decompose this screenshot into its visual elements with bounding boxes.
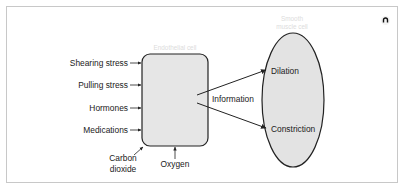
carbon-dioxide-label-line1: Carbon	[109, 153, 137, 163]
pulling-stress-label: Pulling stress	[78, 80, 128, 90]
smooth-muscle-cell-label-line1: Smooth	[281, 15, 303, 22]
oxygen-label: Oxygen	[161, 159, 190, 169]
smooth-muscle-cell: Smooth muscle cell	[262, 15, 324, 167]
dilation-label: Dilation	[271, 66, 299, 76]
input-medications: Medications	[83, 125, 141, 135]
smooth-muscle-cell-label-line2: muscle cell	[276, 23, 308, 30]
refresh-icon	[382, 17, 389, 24]
hormones-label: Hormones	[89, 103, 128, 113]
input-oxygen: Oxygen	[161, 147, 190, 169]
input-hormones: Hormones	[89, 103, 141, 113]
information-label: Information	[212, 94, 254, 104]
settings-toggle-icon[interactable]	[381, 16, 390, 25]
carbon-dioxide-label-line2: dioxide	[110, 164, 137, 174]
constriction-label: Constriction	[271, 124, 316, 134]
input-carbon-dioxide: Carbon dioxide	[109, 147, 143, 174]
endothelial-cell-label: Endothelial cell	[154, 44, 197, 51]
input-pulling-stress: Pulling stress	[78, 80, 141, 90]
input-shearing-stress: Shearing stress	[70, 58, 141, 68]
medications-label: Medications	[83, 125, 128, 135]
shearing-stress-label: Shearing stress	[70, 58, 128, 68]
endothelial-signaling-diagram: Endothelial cell Smooth muscle cell Shea…	[0, 0, 408, 189]
